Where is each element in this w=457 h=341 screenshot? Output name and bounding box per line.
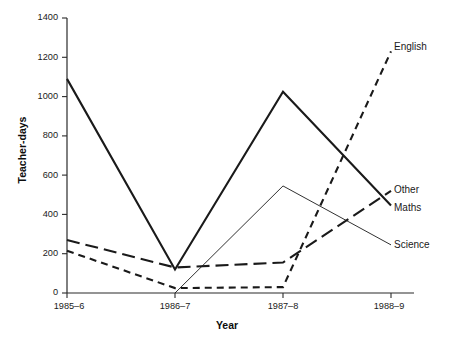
y-tick-label-1000: 1000 <box>38 91 58 101</box>
chart-canvas: 1400 1200 1000 800 600 400 200 0 1985–6 … <box>0 0 457 341</box>
x-tick-group <box>67 293 391 298</box>
y-tick-label-1400: 1400 <box>38 12 58 22</box>
x-tick-label-1987-8: 1987–8 <box>268 301 299 311</box>
x-tick-label-1986-7: 1986–7 <box>160 301 191 311</box>
y-tick-label-0: 0 <box>53 287 58 297</box>
x-tick-label-1985-6: 1985–6 <box>54 301 85 311</box>
x-tick-labels: 1985–6 1986–7 1987–8 1988–9 <box>54 301 405 311</box>
y-tick-label-600: 600 <box>43 170 58 180</box>
x-tick-label-1988-9: 1988–9 <box>374 301 405 311</box>
series-label-other: Other <box>394 184 420 195</box>
y-tick-label-800: 800 <box>43 130 58 140</box>
y-tick-label-400: 400 <box>43 209 58 219</box>
series-label-science: Science <box>394 239 430 250</box>
y-tick-group <box>62 18 67 293</box>
line-chart: 1400 1200 1000 800 600 400 200 0 1985–6 … <box>0 0 457 341</box>
axis-group <box>67 18 414 293</box>
series-line-other <box>67 191 391 268</box>
y-tick-label-1200: 1200 <box>38 52 58 62</box>
x-axis-title: Year <box>216 319 238 331</box>
series-line-maths <box>67 79 391 270</box>
y-axis-title: Teacher-days <box>16 116 28 183</box>
y-tick-labels: 1400 1200 1000 800 600 400 200 0 <box>38 12 58 297</box>
y-tick-label-200: 200 <box>43 248 58 258</box>
series-line-science <box>175 186 391 293</box>
series-label-english: English <box>394 41 427 52</box>
series-label-maths: Maths <box>394 202 421 213</box>
